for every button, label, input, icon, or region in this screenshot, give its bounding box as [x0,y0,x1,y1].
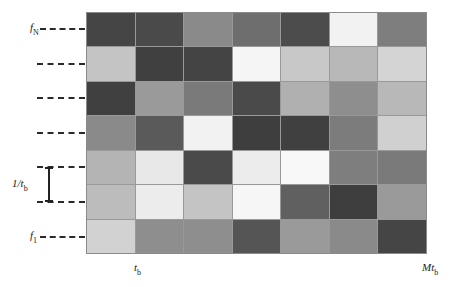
grid-cell [281,82,329,115]
grid-cell [184,47,232,80]
freq-line-row-1 [40,28,85,30]
grid-cell [330,13,378,46]
grid-cell [378,82,426,115]
freq-line-row-3 [37,97,85,99]
grid-cell [87,116,135,149]
grid-cell [281,116,329,149]
grid-cell [233,116,281,149]
grid-cell [233,185,281,218]
grid-cell [330,82,378,115]
grid-cell [330,47,378,80]
grid-cell [233,151,281,184]
grid-cell [378,47,426,80]
label-x-end-main: Mt [422,261,434,273]
grid-cell [184,185,232,218]
grid-cell [136,82,184,115]
grid-cell [330,151,378,184]
grid-cell [136,185,184,218]
grid-cell [87,185,135,218]
grid-cell [87,220,135,253]
grid-cell [184,116,232,149]
grid-cell [378,151,426,184]
label-f-bottom: f1 [30,230,37,245]
label-x-start: tb [134,262,141,277]
grid-cell [233,13,281,46]
label-bin-width-sub: b [24,184,28,193]
grid-cell [378,185,426,218]
grid-cell [184,13,232,46]
freq-line-row-4 [37,132,85,134]
grid-cell [281,47,329,80]
label-f-top: fN [30,22,39,37]
grid-cell [184,82,232,115]
grid-cell [378,116,426,149]
grid-cell [136,47,184,80]
grid-cell [330,185,378,218]
freq-line-row-2 [37,63,85,65]
label-f-bottom-sub: 1 [33,236,37,245]
grid-cell [233,220,281,253]
grid-cell [184,220,232,253]
grid-cell [87,82,135,115]
label-x-end: Mtb [422,262,438,277]
label-bin-width: 1/tb [12,178,28,193]
grid-cell [136,151,184,184]
grid-cell [136,13,184,46]
label-f-top-sub: N [33,28,39,37]
grid-cell [233,47,281,80]
grid-cell [87,13,135,46]
grid-cell [281,13,329,46]
grid-cell [87,151,135,184]
grid-cell [184,151,232,184]
grid-cell [378,220,426,253]
grid-cell [136,220,184,253]
grid-cell [233,82,281,115]
grid-cell [136,116,184,149]
bin-spacing-bracket [48,167,50,202]
grid-cell [330,116,378,149]
grid-cell [281,185,329,218]
grid-cell [330,220,378,253]
label-x-start-sub: b [137,268,141,277]
freq-line-row-7 [40,236,85,238]
label-x-end-sub: b [434,268,438,277]
grid-cell [378,13,426,46]
grid-cell [281,151,329,184]
time-frequency-grid [86,12,427,254]
grid-cell [281,220,329,253]
grid-cell [87,47,135,80]
label-bin-width-main: 1/t [12,177,24,189]
